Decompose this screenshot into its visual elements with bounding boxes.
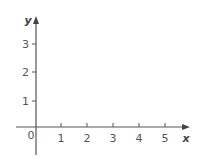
- y-tick-label: 3: [22, 38, 29, 51]
- x-tick-label: 2: [84, 132, 91, 145]
- y-axis-arrow-icon: [33, 16, 39, 24]
- y-axis-label: y: [24, 14, 32, 27]
- x-axis-label: x: [181, 132, 190, 145]
- x-tick-label: 5: [162, 132, 169, 145]
- x-tick-label: 3: [110, 132, 117, 145]
- coordinate-plane: 1 2 3 4 5 1 2 3 0 x y: [0, 0, 199, 165]
- y-tick-label: 2: [22, 66, 29, 79]
- x-tick-label: 1: [58, 132, 65, 145]
- x-axis-arrow-icon: [182, 124, 190, 130]
- origin-label: 0: [28, 129, 35, 142]
- x-tick-label: 4: [136, 132, 143, 145]
- y-tick-label: 1: [22, 95, 29, 108]
